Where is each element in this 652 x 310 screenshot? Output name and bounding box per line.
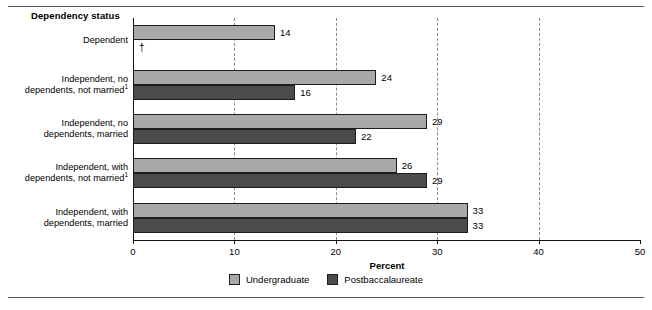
x-axis-line: [133, 240, 641, 241]
bar-value-label-undergraduate-3: 26: [402, 158, 413, 173]
category-label-line: dependents, married: [2, 218, 128, 229]
x-tick-label-40: 40: [533, 246, 544, 257]
category-label-0: Dependent: [2, 35, 128, 46]
legend-swatch-undergraduate-icon: [229, 274, 240, 285]
bar-postbaccalaureate-3: [133, 173, 427, 188]
category-label-column: DependentIndependent, nodependents, not …: [0, 18, 128, 240]
legend-label-undergraduate: Undergraduate: [246, 274, 309, 285]
x-tick-label-0: 0: [130, 246, 135, 257]
category-label-2: Independent, nodependents, married: [2, 118, 128, 140]
category-label-4: Independent, withdependents, married: [2, 207, 128, 229]
bar-value-label-undergraduate-4: 33: [473, 203, 484, 218]
legend-swatch-postbaccalaureate-icon: [327, 274, 338, 285]
bar-value-label-undergraduate-1: 24: [381, 70, 392, 85]
category-label-line: Independent, no: [2, 74, 128, 85]
footnote-marker: 1: [124, 83, 128, 90]
category-label-line: dependents, not married1: [2, 173, 128, 184]
x-tick-20: [336, 240, 337, 244]
bar-value-label-undergraduate-2: 29: [432, 114, 443, 129]
bar-undergraduate-1: [133, 70, 376, 85]
x-tick-label-30: 30: [432, 246, 443, 257]
category-label-line: Independent, no: [2, 118, 128, 129]
bar-value-label-postbaccalaureate-4: 33: [473, 218, 484, 233]
suppressed-marker-0: †: [139, 40, 145, 55]
category-label-line: Dependent: [2, 35, 128, 46]
x-tick-40: [539, 240, 540, 244]
category-label-1: Independent, nodependents, not married1: [2, 74, 128, 96]
bar-undergraduate-4: [133, 203, 468, 218]
category-label-3: Independent, withdependents, not married…: [2, 162, 128, 184]
chart-legend: Undergraduate Postbaccalaureate: [0, 274, 652, 285]
category-label-line: Independent, with: [2, 207, 128, 218]
bar-undergraduate-3: [133, 158, 397, 173]
bottom-rule: [8, 297, 644, 298]
x-axis-title: Percent: [133, 260, 641, 271]
bar-value-label-postbaccalaureate-1: 16: [300, 85, 311, 100]
bar-postbaccalaureate-4: [133, 218, 468, 233]
x-tick-30: [437, 240, 438, 244]
x-tick-label-10: 10: [229, 246, 240, 257]
plot-area: Percent 0102030405014†2416292226293333: [133, 18, 640, 240]
x-tick-50: [640, 240, 641, 244]
x-tick-10: [234, 240, 235, 244]
footnote-marker: 1: [124, 171, 128, 178]
category-label-line: Independent, with: [2, 162, 128, 173]
bar-value-label-undergraduate-0: 14: [280, 25, 291, 40]
top-rule: [8, 6, 644, 7]
bar-undergraduate-2: [133, 114, 427, 129]
bar-undergraduate-0: [133, 25, 275, 40]
bar-value-label-postbaccalaureate-2: 22: [361, 129, 372, 144]
category-label-line: dependents, married: [2, 129, 128, 140]
legend-label-postbaccalaureate: Postbaccalaureate: [344, 274, 423, 285]
x-tick-0: [133, 240, 134, 244]
bar-postbaccalaureate-2: [133, 129, 356, 144]
legend-item-postbaccalaureate: Postbaccalaureate: [327, 274, 423, 285]
chart-figure: Dependency status DependentIndependent, …: [0, 0, 652, 310]
x-tick-label-20: 20: [331, 246, 342, 257]
bar-value-label-postbaccalaureate-3: 29: [432, 173, 443, 188]
gridline-40: [539, 18, 540, 240]
category-label-line: dependents, not married1: [2, 85, 128, 96]
x-tick-label-50: 50: [635, 246, 646, 257]
bar-postbaccalaureate-1: [133, 85, 295, 100]
legend-item-undergraduate: Undergraduate: [229, 274, 309, 285]
